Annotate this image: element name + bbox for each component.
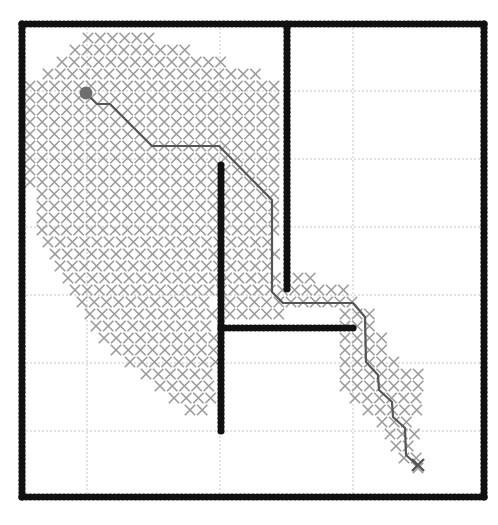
explored-node-x-icon (37, 129, 47, 139)
explored-node-x-icon (94, 285, 104, 295)
explored-node-x-icon (141, 369, 151, 379)
explored-node-x-icon (110, 153, 120, 163)
explored-node-x-icon (376, 345, 386, 355)
explored-node-x-icon (244, 153, 254, 163)
explored-node-x-icon (61, 201, 71, 211)
explored-node-x-icon (49, 213, 59, 223)
explored-node-x-icon (73, 189, 83, 199)
explored-node-x-icon (352, 309, 362, 319)
explored-node-x-icon (137, 357, 147, 367)
explored-node-x-icon (135, 333, 145, 343)
explored-node-x-icon (195, 213, 205, 223)
explored-node-x-icon (135, 345, 145, 355)
explored-node-x-icon (140, 69, 150, 79)
explored-node-x-icon (103, 321, 113, 331)
explored-node-x-icon (232, 213, 242, 223)
explored-node-x-icon (201, 261, 211, 271)
explored-node-x-icon (207, 309, 217, 319)
explored-node-x-icon (122, 153, 132, 163)
explored-node-x-icon (220, 93, 230, 103)
explored-node-x-icon (250, 237, 260, 247)
explored-node-x-icon (37, 213, 47, 223)
explored-node-x-icon (147, 81, 157, 91)
explored-node-x-icon (171, 225, 181, 235)
explored-node-x-icon (74, 153, 84, 163)
explored-node-x-icon (123, 345, 133, 355)
explored-node-x-icon (171, 129, 181, 139)
explored-node-x-icon (257, 129, 267, 139)
explored-node-x-icon (171, 117, 181, 127)
explored-node-x-icon (208, 189, 218, 199)
explored-node-x-icon (269, 201, 279, 211)
explored-node-x-icon (340, 357, 350, 367)
explored-node-x-icon (269, 81, 279, 91)
explored-node-x-icon (131, 45, 141, 55)
explored-node-x-icon (215, 57, 225, 67)
explored-node-x-icon (177, 261, 187, 271)
explored-node-x-icon (138, 297, 148, 307)
explored-node-x-icon (61, 153, 71, 163)
explored-node-x-icon (411, 393, 421, 403)
explored-node-x-icon (61, 93, 71, 103)
explored-node-x-icon (123, 333, 133, 343)
explored-node-x-icon (197, 405, 207, 415)
explored-node-x-icon (131, 285, 141, 295)
path-planning-plot (0, 0, 498, 525)
explored-node-x-icon (61, 189, 71, 199)
explored-node-x-icon (73, 213, 83, 223)
explored-node-x-icon (93, 57, 103, 67)
explored-node-x-icon (110, 165, 120, 175)
explored-node-x-icon (99, 333, 109, 343)
explored-node-x-icon (159, 213, 169, 223)
explored-node-x-icon (232, 93, 242, 103)
explored-node-x-icon (158, 309, 168, 319)
explored-node-x-icon (171, 93, 181, 103)
explored-node-x-icon (165, 261, 175, 271)
explored-node-x-icon (185, 405, 195, 415)
explored-node-x-icon (61, 141, 71, 151)
explored-node-x-icon (352, 357, 362, 367)
explored-node-x-icon (232, 177, 242, 187)
explored-node-x-icon (362, 393, 372, 403)
explored-node-x-icon (244, 201, 254, 211)
explored-node-x-icon (377, 417, 387, 427)
explored-node-x-icon (302, 285, 312, 295)
explored-node-x-icon (220, 129, 230, 139)
explored-node-x-icon (55, 69, 65, 79)
explored-node-x-icon (183, 213, 193, 223)
explored-node-x-icon (61, 105, 71, 115)
explored-node-x-icon (122, 225, 132, 235)
explored-node-x-icon (92, 69, 102, 79)
explored-node-x-icon (140, 237, 150, 247)
explored-node-x-icon (125, 357, 135, 367)
explored-node-x-icon (340, 309, 350, 319)
explored-node-x-icon (244, 81, 254, 91)
explored-node-x-icon (140, 321, 150, 331)
explored-node-x-icon (110, 117, 120, 127)
explored-node-x-icon (189, 69, 199, 79)
explored-node-x-icon (196, 249, 206, 259)
explored-node-x-icon (171, 165, 181, 175)
explored-node-x-icon (234, 273, 244, 283)
explored-node-x-icon (61, 225, 71, 235)
explored-node-x-icon (202, 369, 212, 379)
explored-node-x-icon (67, 261, 77, 271)
explored-node-x-icon (241, 285, 251, 295)
wall-c-dot (349, 324, 356, 331)
explored-node-x-icon (196, 345, 206, 355)
explored-node-x-icon (159, 225, 169, 235)
explored-node-x-icon (160, 345, 170, 355)
explored-node-x-icon (238, 237, 248, 247)
explored-node-x-icon (135, 81, 145, 91)
explored-node-x-icon (183, 189, 193, 199)
explored-node-x-icon (126, 297, 136, 307)
explored-node-x-icon (37, 93, 47, 103)
explored-node-x-icon (111, 249, 121, 259)
explored-node-x-icon (135, 93, 145, 103)
explored-node-x-icon (413, 369, 423, 379)
explored-node-x-icon (167, 45, 177, 55)
explored-node-x-icon (116, 261, 126, 271)
explored-node-x-icon (147, 249, 157, 259)
explored-node-x-icon (183, 117, 193, 127)
explored-node-x-icon (159, 165, 169, 175)
